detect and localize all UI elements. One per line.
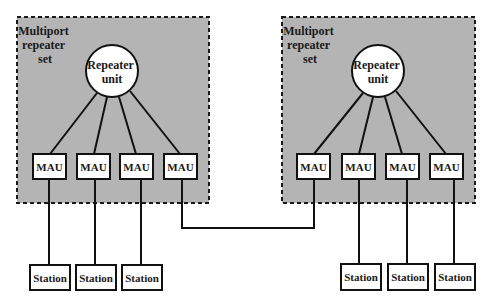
station-node: Station xyxy=(388,264,428,290)
mau-node: MAU xyxy=(164,154,197,179)
station-node: Station xyxy=(122,265,162,290)
multiport-repeater-diagram: Multiport repeater set Repeater unit MAU… xyxy=(0,0,492,305)
svg-text:MAU: MAU xyxy=(389,161,415,173)
svg-text:MAU: MAU xyxy=(167,161,193,173)
svg-text:Station: Station xyxy=(79,272,113,284)
station-node: Station xyxy=(30,265,70,290)
repeater-set-left: Multiport repeater set Repeater unit MAU… xyxy=(17,17,209,290)
mau-node: MAU xyxy=(297,154,330,179)
svg-text:Station: Station xyxy=(125,272,159,284)
svg-text:Station: Station xyxy=(33,272,67,284)
station-node: Station xyxy=(341,264,381,290)
svg-text:MAU: MAU xyxy=(345,161,371,173)
station-node: Station xyxy=(76,265,116,290)
mau-node: MAU xyxy=(342,154,375,179)
mau-node: MAU xyxy=(386,154,419,179)
station-node: Station xyxy=(435,264,475,290)
mau-node: MAU xyxy=(120,154,153,179)
repeater-set-right: Multiport repeater set Repeater unit MAU… xyxy=(282,17,475,290)
svg-text:MAU: MAU xyxy=(433,161,459,173)
svg-text:MAU: MAU xyxy=(36,161,62,173)
svg-text:MAU: MAU xyxy=(80,161,106,173)
svg-text:Station: Station xyxy=(344,271,378,283)
mau-node: MAU xyxy=(77,154,110,179)
svg-text:Station: Station xyxy=(438,271,472,283)
svg-text:Station: Station xyxy=(391,271,425,283)
mau-node: MAU xyxy=(430,154,463,179)
svg-text:MAU: MAU xyxy=(300,161,326,173)
mau-node: MAU xyxy=(33,154,66,179)
svg-text:MAU: MAU xyxy=(123,161,149,173)
